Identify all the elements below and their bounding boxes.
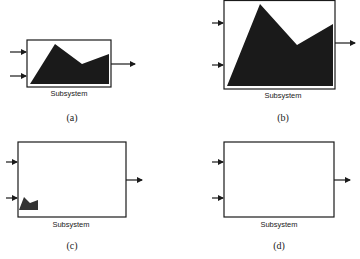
panel-a: Subsystem (a) — [10, 40, 135, 124]
figure: Subsystem (a) Subsystem (b) Subsystem (c… — [0, 0, 360, 259]
panel-d: Subsystem (d) — [212, 142, 350, 252]
block-label: Subsystem — [52, 220, 89, 229]
subsystem-block[interactable] — [224, 142, 334, 217]
caption: (d) — [273, 240, 285, 252]
panel-c: Subsystem (c) — [6, 142, 142, 252]
caption: (c) — [66, 240, 77, 252]
panel-b: Subsystem (b) — [212, 1, 355, 125]
caption: (b) — [277, 112, 289, 124]
block-label: Subsystem — [50, 89, 87, 98]
block-label: Subsystem — [264, 91, 301, 100]
block-label: Subsystem — [260, 220, 297, 229]
caption: (a) — [66, 112, 77, 124]
